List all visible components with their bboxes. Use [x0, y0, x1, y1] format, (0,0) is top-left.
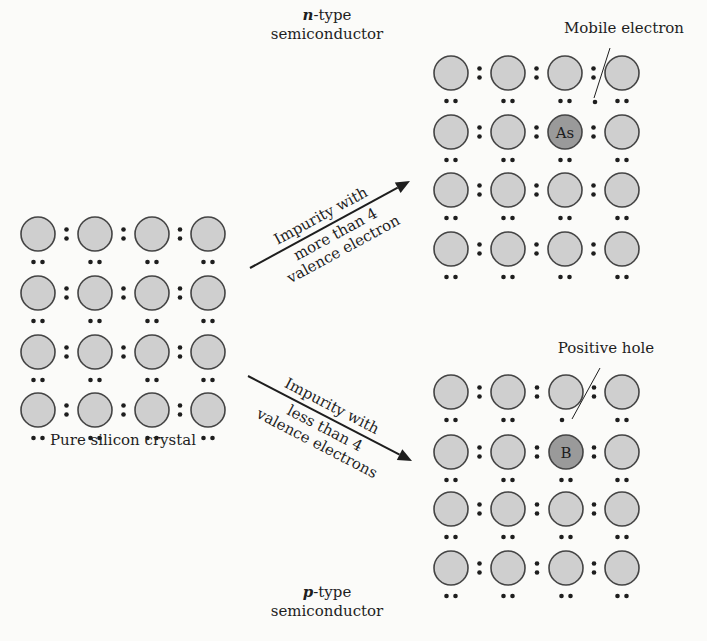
impurity-symbol: As [555, 124, 575, 142]
electron-dot [444, 535, 449, 540]
electron-dot [477, 134, 482, 139]
electron-dot [510, 478, 515, 483]
electron-dot [444, 216, 449, 221]
electron-dot [178, 227, 183, 232]
electron-dot [510, 418, 515, 423]
arrow-to-p-type: Impurity withless than 4valence electron… [248, 369, 412, 482]
silicon-atom [549, 492, 583, 526]
electron-dot [477, 502, 482, 507]
silicon-atom [491, 375, 525, 409]
electron-dot [591, 242, 596, 247]
silicon-atom [21, 335, 55, 369]
silicon-atom [434, 56, 468, 90]
electron-dot [178, 354, 183, 359]
electron-dot [558, 158, 563, 163]
electron-dot [145, 319, 150, 324]
silicon-atom [434, 375, 468, 409]
electron-dot [510, 99, 515, 104]
pure-silicon-crystal: Pure silicon crystal [21, 217, 225, 449]
electron-dot [535, 445, 540, 450]
electron-dot [534, 134, 539, 139]
semiconductor-doping-diagram: Pure silicon crystalAsMobile electronBPo… [0, 0, 707, 641]
electron-dot [568, 478, 573, 483]
crystal-lattices: Pure silicon crystalAsMobile electronBPo… [21, 19, 684, 598]
electron-dot [444, 478, 449, 483]
electron-dot [121, 403, 126, 408]
arrow-to-n-type: Impurity withmore than 4valence electron [250, 176, 410, 288]
electron-dot [145, 378, 150, 383]
electron-dot [592, 561, 597, 566]
electron-dot [615, 594, 620, 599]
electron-dot [534, 242, 539, 247]
p-type-crystal: BPositive hole [434, 339, 654, 598]
electron-dot [535, 511, 540, 516]
silicon-atom [21, 217, 55, 251]
electron-dot [453, 478, 458, 483]
doping-arrows: Impurity withmore than 4valence electron… [248, 176, 412, 482]
electron-dot [178, 286, 183, 291]
electron-dot [97, 378, 102, 383]
silicon-atom [78, 276, 112, 310]
electron-dot [40, 319, 45, 324]
electron-dot [624, 216, 629, 221]
electron-dot [201, 436, 206, 441]
electron-dot [534, 125, 539, 130]
silicon-atom [191, 217, 225, 251]
silicon-atom [491, 56, 525, 90]
silicon-atom [605, 492, 639, 526]
electron-dot [567, 99, 572, 104]
annotation-label: Positive hole [558, 339, 654, 357]
electron-dot [210, 260, 215, 265]
electron-dot [453, 216, 458, 221]
electron-dot [534, 183, 539, 188]
electron-dot [453, 158, 458, 163]
electron-dot [567, 216, 572, 221]
electron-dot [121, 354, 126, 359]
electron-dot [510, 275, 515, 280]
silicon-atom [605, 435, 639, 469]
electron-dot [501, 216, 506, 221]
silicon-atom [434, 492, 468, 526]
electron-dot [40, 378, 45, 383]
electron-dot [592, 570, 597, 575]
p-type-title: p-type semiconductor [271, 583, 384, 620]
impurity-symbol: B [560, 444, 571, 462]
silicon-atom [434, 551, 468, 585]
electron-dot [444, 158, 449, 163]
electron-dot [591, 66, 596, 71]
electron-dot [615, 275, 620, 280]
electron-dot [591, 192, 596, 197]
electron-dot [568, 535, 573, 540]
silicon-atom [549, 551, 583, 585]
electron-dot [444, 99, 449, 104]
p-type-title-line1: p-type [303, 583, 352, 601]
electron-dot [615, 478, 620, 483]
electron-dot [558, 275, 563, 280]
electron-dot [40, 436, 45, 441]
silicon-atom [191, 335, 225, 369]
electron-dot [592, 511, 597, 516]
electron-dot [615, 535, 620, 540]
electron-dot [477, 511, 482, 516]
electron-dot [121, 286, 126, 291]
electron-dot [121, 227, 126, 232]
p-type-title-line2: semiconductor [271, 602, 384, 620]
silicon-atom [434, 435, 468, 469]
electron-dot [477, 192, 482, 197]
electron-dot [591, 125, 596, 130]
electron-dot [559, 478, 564, 483]
electron-dot [591, 75, 596, 80]
electron-dot [477, 394, 482, 399]
electron-dot [559, 594, 564, 599]
silicon-atom [548, 173, 582, 207]
silicon-atom [491, 115, 525, 149]
electron-dot [568, 594, 573, 599]
electron-dot [121, 236, 126, 241]
mobile-electron-dot [593, 100, 598, 105]
electron-dot [591, 251, 596, 256]
electron-dot [210, 319, 215, 324]
silicon-atom [78, 393, 112, 427]
silicon-atom [491, 232, 525, 266]
electron-dot [154, 319, 159, 324]
electron-dot [558, 216, 563, 221]
